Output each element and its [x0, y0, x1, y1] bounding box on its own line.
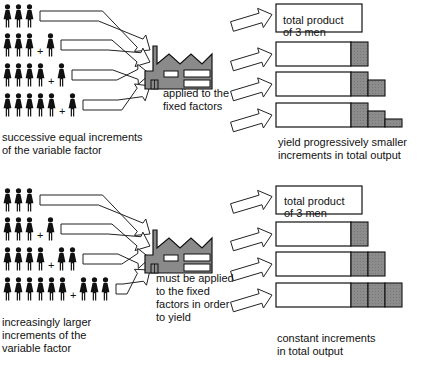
hollow-arrow-icon — [231, 8, 272, 31]
person-icon — [37, 247, 45, 270]
person-icon — [4, 188, 12, 211]
caption-line: in total output — [277, 345, 375, 358]
person-icon — [15, 63, 23, 86]
box-label-line: of 3 men — [283, 26, 344, 38]
left-caption: successive equal increments of the varia… — [2, 131, 143, 157]
person-icon — [91, 277, 99, 300]
factory-icon — [145, 46, 212, 89]
middle-caption: must be applied to the fixed factors in … — [156, 272, 234, 324]
plus-sign: + — [70, 289, 76, 301]
person-icon — [37, 277, 45, 300]
base-output-segment — [276, 283, 351, 307]
person-icon — [26, 93, 34, 116]
caption-line: of the variable factor — [2, 144, 143, 157]
base-output-segment — [276, 222, 351, 246]
person-icon — [69, 247, 77, 270]
person-icon — [4, 4, 12, 27]
output-bar — [276, 252, 385, 276]
increment-segment — [368, 283, 385, 307]
caption-line: constant increments — [277, 332, 375, 345]
person-icon — [4, 247, 12, 270]
right-caption: constant increments in total output — [277, 332, 375, 358]
person-icon — [4, 93, 12, 116]
increment-segment — [351, 72, 368, 96]
plus-sign: + — [48, 259, 54, 271]
caption-line: increments of the — [2, 329, 91, 342]
hollow-arrow-icon — [83, 84, 150, 110]
person-icon — [37, 93, 45, 116]
output-bar — [276, 222, 368, 246]
caption-line: must be applied — [156, 272, 234, 285]
increment-segment — [368, 80, 385, 96]
person-icon — [26, 63, 34, 86]
person-icon — [69, 93, 77, 116]
person-icon — [26, 33, 34, 56]
box-label-line: total product — [284, 195, 345, 207]
increment-segment — [385, 119, 402, 127]
caption-line: increments in total output — [278, 149, 407, 162]
middle-caption: applied to the fixed factors — [163, 87, 229, 113]
person-icon — [15, 188, 23, 211]
person-icon — [58, 63, 66, 86]
person-icon — [26, 188, 34, 211]
increment-segment — [385, 283, 402, 307]
person-icon — [15, 247, 23, 270]
caption-line: fixed factors — [163, 100, 229, 113]
person-icon — [58, 247, 66, 270]
base-output-segment — [276, 72, 351, 96]
increment-segment — [368, 111, 385, 127]
person-icon — [47, 217, 55, 240]
person-icon — [15, 93, 23, 116]
plus-sign: + — [37, 229, 43, 241]
hollow-arrow-icon — [231, 190, 272, 213]
people-row: + — [4, 247, 150, 271]
hollow-arrow-icon — [231, 228, 272, 251]
caption-line: yield progressively smaller — [278, 136, 407, 149]
caption-line: successive equal increments — [2, 131, 143, 144]
increment-segment — [351, 283, 368, 307]
person-icon — [59, 277, 67, 300]
person-icon — [4, 33, 12, 56]
base-output-segment — [276, 42, 351, 66]
output-bar — [276, 283, 402, 307]
hollow-arrow-icon — [72, 64, 150, 84]
people-row: + — [4, 84, 150, 117]
output-bar — [276, 42, 368, 66]
person-icon — [37, 63, 45, 86]
person-icon — [48, 277, 56, 300]
person-icon — [102, 277, 110, 300]
increment-segment — [351, 222, 368, 246]
factory-icon — [145, 230, 212, 273]
hollow-arrow-icon — [231, 78, 272, 101]
increment-segment — [351, 42, 368, 66]
output-bar — [276, 72, 385, 96]
person-icon — [26, 217, 34, 240]
person-icon — [26, 247, 34, 270]
caption-line: to the fixed — [156, 285, 234, 298]
base-output-segment — [276, 252, 351, 276]
person-icon — [15, 4, 23, 27]
person-icon — [47, 33, 55, 56]
hollow-arrow-icon — [231, 289, 272, 312]
person-icon — [26, 4, 34, 27]
person-icon — [48, 93, 56, 116]
hollow-arrow-icon — [231, 258, 272, 281]
increment-segment — [368, 252, 385, 276]
box-label-line: total product — [283, 14, 344, 26]
right-caption: yield progressively smaller increments i… — [278, 136, 407, 162]
box-label: total product of 3 men — [283, 14, 344, 38]
person-icon — [4, 63, 12, 86]
plus-sign: + — [37, 45, 43, 57]
hollow-arrow-icon — [231, 109, 272, 132]
person-icon — [4, 217, 12, 240]
increment-segment — [351, 103, 368, 127]
person-icon — [4, 277, 12, 300]
caption-line: factors in order — [156, 298, 234, 311]
plus-sign: + — [59, 105, 65, 117]
caption-line: to yield — [156, 311, 234, 324]
base-output-segment — [276, 103, 351, 127]
box-label-line: of 3 men — [284, 207, 345, 219]
people-row: + — [4, 63, 150, 87]
person-icon — [15, 217, 23, 240]
person-icon — [80, 277, 88, 300]
